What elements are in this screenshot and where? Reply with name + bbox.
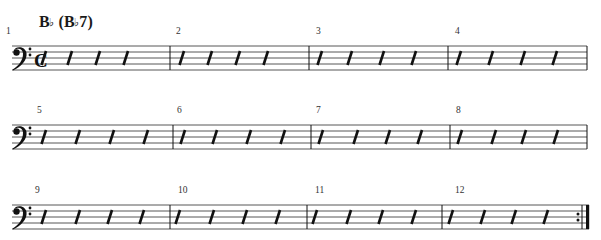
measure-number: 7 [316,106,321,116]
bass-clef-icon [13,206,32,229]
measure-number: 3 [316,27,321,37]
bass-clef-icon [13,47,32,70]
score-canvas: C [0,0,601,240]
measure-number: 9 [35,186,40,196]
measure-number: 2 [176,27,181,37]
measure-number: 11 [315,186,324,196]
measure-number: 1 [6,27,11,37]
measure-number: 10 [178,186,188,196]
measure-number: 8 [456,106,461,116]
measure-number: 5 [37,106,42,116]
repeat-thick-barline [586,205,589,229]
measure-number: 6 [177,106,182,116]
repeat-dot-icon [577,213,580,216]
bass-clef-icon [13,126,32,149]
measure-number: 12 [455,186,465,196]
repeat-dot-icon [577,219,580,222]
measure-number: 4 [455,27,460,37]
